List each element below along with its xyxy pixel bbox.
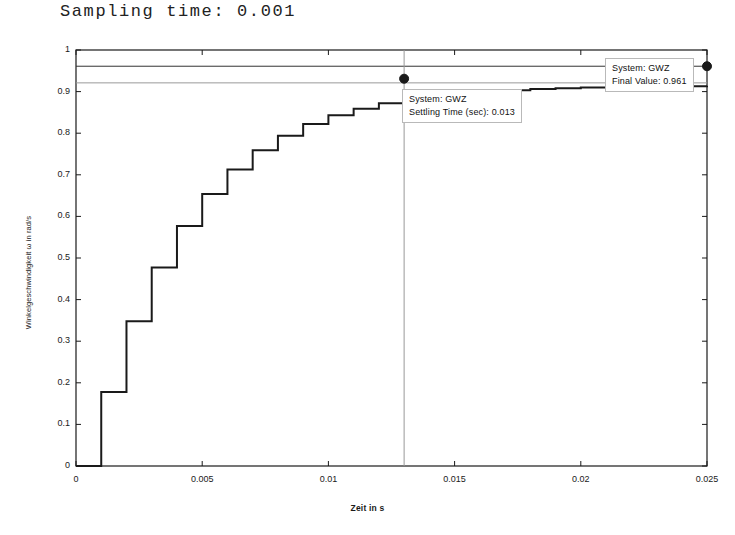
y-tick-label: 0.5 — [30, 252, 70, 262]
y-tick-label: 0.6 — [30, 210, 70, 220]
reference-lines — [76, 50, 707, 466]
x-tick-label: 0 — [46, 474, 106, 484]
y-tick-label: 0.7 — [30, 169, 70, 179]
y-tick-label: 0.4 — [30, 294, 70, 304]
x-tick-label: 0.01 — [298, 474, 358, 484]
step-response-curve — [76, 86, 707, 466]
y-tick-label: 0.1 — [30, 418, 70, 428]
x-tick-label: 0.005 — [172, 474, 232, 484]
x-tick-label: 0.025 — [677, 474, 735, 484]
y-tick-label: 0.8 — [30, 127, 70, 137]
y-tick-label: 0.2 — [30, 377, 70, 387]
y-tick-label: 0 — [30, 460, 70, 470]
x-axis-label: Zeit in s — [0, 503, 735, 513]
settling-time-datatip[interactable]: System: GWZ Settling Time (sec): 0.013 — [402, 89, 522, 123]
settling-time-value: Settling Time (sec): 0.013 — [409, 106, 515, 119]
settling-system-label: System: GWZ — [409, 93, 515, 106]
x-tick-label: 0.02 — [551, 474, 611, 484]
y-tick-label: 1 — [30, 44, 70, 54]
axes-box — [76, 50, 707, 466]
x-tick-label: 0.015 — [425, 474, 485, 484]
y-axis-label: Winkelgeschwindigkeit ω in rad/s — [24, 183, 33, 363]
y-tick-label: 0.3 — [30, 335, 70, 345]
figure-canvas: Sampling time: 0.001 00.10.20.30.40.50.6… — [0, 0, 735, 535]
y-tick-label: 0.9 — [30, 86, 70, 96]
axis-tick-marks — [76, 50, 707, 466]
final-system-label: System: GWZ — [612, 62, 687, 75]
final-value-value: Final Value: 0.961 — [612, 75, 687, 88]
final-value-datatip[interactable]: System: GWZ Final Value: 0.961 — [605, 58, 694, 92]
